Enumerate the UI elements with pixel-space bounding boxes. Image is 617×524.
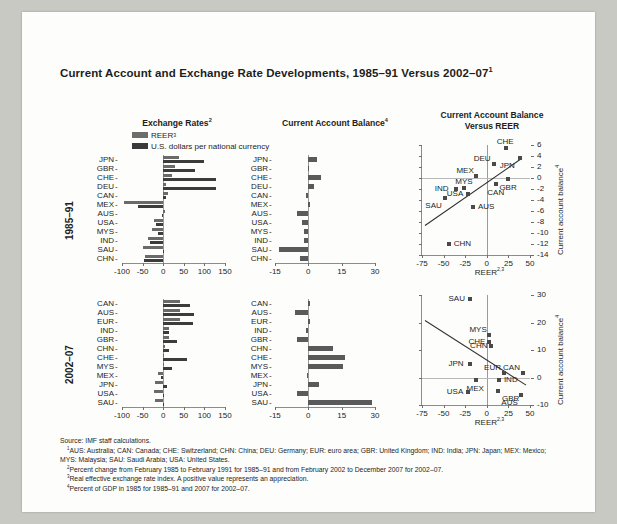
category-tick: - xyxy=(115,326,118,335)
category-label: JPN xyxy=(244,155,268,164)
bar xyxy=(163,403,164,406)
scatter-point-label: CHN xyxy=(454,239,471,248)
y-tick-left xyxy=(419,295,422,296)
scatter-point-label: SAU xyxy=(449,294,465,303)
category-tick: - xyxy=(269,308,272,317)
legend: REER3 U.S. dollars per national currency xyxy=(132,130,269,152)
bar xyxy=(163,183,166,186)
y-axis-title-text: Current account balance xyxy=(556,168,565,255)
bar xyxy=(163,331,168,334)
scatter-point xyxy=(468,297,472,301)
scatter-point xyxy=(496,389,500,393)
y-tick-right xyxy=(531,200,534,201)
scatter-point-label: MYS xyxy=(469,325,486,334)
y-tick-left xyxy=(419,378,422,379)
category-tick: - xyxy=(269,317,272,326)
category-tick: - xyxy=(269,191,272,200)
y-tick-left xyxy=(419,255,422,256)
scatter-point xyxy=(487,340,491,344)
scatter-point xyxy=(494,182,498,186)
category-label: JPN xyxy=(244,380,268,389)
bar xyxy=(163,187,216,190)
scatter-point xyxy=(506,177,510,181)
note-3: 3Real effective exchange rate index. A p… xyxy=(60,474,560,484)
category-tick: - xyxy=(115,317,118,326)
x-tick-label: 15 xyxy=(328,411,356,420)
chart-ca-vs-reer-1985-91: -75-50-25025506420-2-4-6-8-10-12-14CHEDE… xyxy=(422,145,530,255)
category-label: USA xyxy=(244,389,268,398)
y-tick-label: -4 xyxy=(537,195,544,204)
category-tick: - xyxy=(115,245,118,254)
bar xyxy=(163,192,168,195)
bar xyxy=(163,394,164,397)
category-tick: - xyxy=(269,380,272,389)
legend-item-usd: U.S. dollars per national currency xyxy=(132,141,269,151)
category-label: USA xyxy=(244,218,268,227)
x-tick xyxy=(163,263,164,266)
category-tick: - xyxy=(115,371,118,380)
category-tick: - xyxy=(269,299,272,308)
category-tick: - xyxy=(115,164,118,173)
category-tick: - xyxy=(269,254,272,263)
scatter-point xyxy=(487,333,491,337)
column-title-current-account-sup: 4 xyxy=(385,117,388,123)
column-title-current-account-text: Current Account Balance xyxy=(282,118,385,128)
category-label: IND xyxy=(90,236,114,245)
category-tick: - xyxy=(269,200,272,209)
bar xyxy=(163,327,169,330)
scatter-point-label: EUR xyxy=(484,363,501,372)
y-axis-title: Current account balance4 xyxy=(556,165,565,255)
category-tick: - xyxy=(115,218,118,227)
category-tick: - xyxy=(115,182,118,191)
category-label: USA xyxy=(90,218,114,227)
category-label: AUS xyxy=(244,209,268,218)
bar xyxy=(163,165,175,168)
bar xyxy=(297,337,308,342)
row-label-2002-07: 2002–07 xyxy=(64,345,75,384)
x-tick xyxy=(225,263,226,266)
x-axis-title-text: REER xyxy=(475,418,497,427)
category-label: CHE xyxy=(90,173,114,182)
x-tick-label: 150 xyxy=(211,267,239,276)
x-tick xyxy=(122,407,123,410)
note-1: 1AUS: Australia; CAN: Canada; CHE: Switz… xyxy=(60,446,560,465)
x-tick-label: 15 xyxy=(328,267,356,276)
x-tick xyxy=(184,263,185,266)
y-tick-right xyxy=(531,189,534,190)
y-tick-label: 30 xyxy=(537,290,546,299)
column-title-exchange-rates: Exchange Rates2 xyxy=(117,118,237,129)
x-tick-label: 50 xyxy=(516,259,544,268)
y-tick-right xyxy=(531,295,534,296)
zero-line xyxy=(308,299,309,407)
category-tick: - xyxy=(115,254,118,263)
chart-current-account-balance-2002-07: -1501530CAN-AUS-EUR-IND-GBR-CHN-CHE-MYS-… xyxy=(275,299,375,407)
scatter-point-label: CAN xyxy=(487,188,504,197)
x-tick-label: -15 xyxy=(261,267,289,276)
category-label: CAN xyxy=(90,299,114,308)
category-label: CHE xyxy=(244,353,268,362)
category-label: MYS xyxy=(90,362,114,371)
category-tick: - xyxy=(115,389,118,398)
chart-exchange-rates-2002-07: -100-50050100150CAN-AUS-EUR-IND-GBR-CHN-… xyxy=(122,299,225,407)
y-tick-label: 20 xyxy=(537,318,546,327)
y-tick-right xyxy=(531,378,534,379)
x-tick xyxy=(143,263,144,266)
category-label: GBR xyxy=(90,164,114,173)
category-label: IND xyxy=(244,236,268,245)
category-label: IND xyxy=(90,326,114,335)
y-tick-left xyxy=(419,145,422,146)
category-label: MEX xyxy=(244,371,268,380)
figure-notes: Source: IMF staff calculations. 1AUS: Au… xyxy=(60,436,560,494)
y-tick-label: -10 xyxy=(537,228,549,237)
category-tick: - xyxy=(269,209,272,218)
category-label: CHE xyxy=(90,353,114,362)
x-tick-label: 30 xyxy=(361,411,389,420)
y-tick-right xyxy=(531,167,534,168)
scatter-point xyxy=(447,242,451,246)
category-tick: - xyxy=(115,173,118,182)
category-label: CAN xyxy=(90,191,114,200)
y-tick-right xyxy=(531,222,534,223)
x-tick xyxy=(444,255,445,258)
category-tick: - xyxy=(115,380,118,389)
scatter-point-label: CHN xyxy=(470,341,487,350)
